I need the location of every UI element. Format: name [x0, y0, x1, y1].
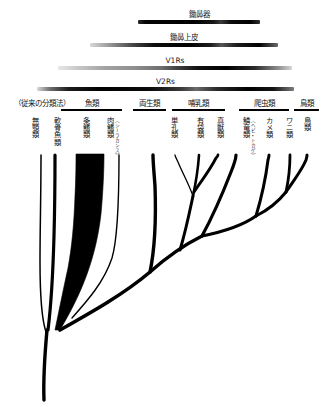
phylogenetic-tree	[0, 0, 321, 411]
tree-branch-amniote-trunk	[150, 236, 202, 272]
tree-branch-monotremata	[175, 155, 193, 196]
tree-branch-lepidosauria	[202, 155, 236, 236]
tree-clade-actinopterygii	[55, 154, 104, 330]
tree-branch-amphibia	[150, 155, 155, 272]
tree-branch-testudines	[256, 155, 269, 216]
figure-canvas: 鋤鼻器 鋤鼻上皮 V1Rs V2Rs （従来の分類法） 魚類 両生類 哺乳類 爬…	[0, 0, 321, 411]
tree-branch-agnatha	[40, 155, 46, 332]
tree-branch-root	[44, 330, 47, 400]
tree-branch-chondrichthyes	[48, 155, 55, 330]
